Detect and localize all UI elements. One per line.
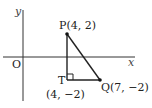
point-t-label: T <box>58 75 65 86</box>
origin-label: O <box>12 59 21 70</box>
y-axis-label: y <box>15 6 21 17</box>
point-p <box>65 32 69 36</box>
point-p-label: P(4, 2) <box>59 20 96 31</box>
x-axis-label: x <box>128 57 134 68</box>
point-q-label: Q(7, −2) <box>101 82 149 93</box>
point-t-coord-label: (4, −2) <box>46 89 85 100</box>
coordinate-diagram: y x O P(4, 2) Q(7, −2) T (4, −2) <box>0 0 152 108</box>
right-angle-marker <box>67 74 73 80</box>
